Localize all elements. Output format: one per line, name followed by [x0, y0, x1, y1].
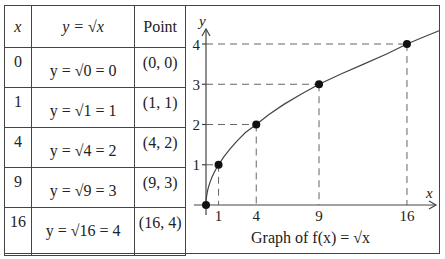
sqrt-graph: y x 1 2 3 4 1 4 9 16: [186, 5, 440, 254]
y-tick-label: 2: [193, 117, 201, 133]
values-table: x y = √x Point 0 y = √0 = 0 (0, 0) 1 y =…: [4, 5, 186, 256]
table-row: 16 y = √16 = 4 (16, 4): [5, 208, 186, 256]
y-tick-label: 1: [193, 157, 201, 173]
graph-caption: Graph of f(x) = √x: [251, 229, 370, 247]
header-x: x: [5, 6, 32, 48]
table-row: 9 y = √9 = 3 (9, 3): [5, 168, 186, 208]
table-row: 4 y = √4 = 2 (4, 2): [5, 128, 186, 168]
cell-equation: y = √0 = 0: [31, 48, 134, 88]
cell-x: 0: [5, 48, 32, 88]
cell-x: 4: [5, 128, 32, 168]
cell-point: (1, 1): [135, 88, 186, 128]
y-axis-label: y: [197, 13, 206, 29]
x-tick-label: 16: [399, 208, 415, 224]
point-16-4: [403, 40, 411, 48]
cell-x: 9: [5, 168, 32, 208]
sqrt-curve: [206, 31, 439, 205]
y-tick-label: 4: [193, 37, 201, 53]
table-row: 0 y = √0 = 0 (0, 0): [5, 48, 186, 88]
point-1-1: [215, 161, 223, 169]
cell-equation: y = √4 = 2: [31, 128, 134, 168]
header-equation: y = √x: [31, 6, 134, 48]
x-tick-label: 4: [252, 208, 260, 224]
cell-point: (9, 3): [135, 168, 186, 208]
axes: [194, 29, 436, 215]
cell-point: (4, 2): [135, 128, 186, 168]
cell-point: (0, 0): [135, 48, 186, 88]
x-tick-label: 9: [315, 208, 323, 224]
point-9-3: [315, 80, 323, 88]
cell-x: 1: [5, 88, 32, 128]
y-tick-label: 3: [193, 77, 201, 93]
header-point: Point: [135, 6, 186, 48]
x-tick-label: 1: [215, 208, 223, 224]
point-0-0: [202, 201, 210, 209]
cell-equation: y = √16 = 4: [31, 208, 134, 256]
x-axis-label: x: [425, 185, 433, 201]
cell-equation: y = √9 = 3: [31, 168, 134, 208]
cell-x: 16: [5, 208, 32, 256]
cell-equation: y = √1 = 1: [31, 88, 134, 128]
point-4-2: [252, 121, 260, 129]
cell-point: (16, 4): [135, 208, 186, 256]
guide-lines: [206, 44, 407, 205]
table-header-row: x y = √x Point: [5, 6, 186, 48]
table-row: 1 y = √1 = 1 (1, 1): [5, 88, 186, 128]
